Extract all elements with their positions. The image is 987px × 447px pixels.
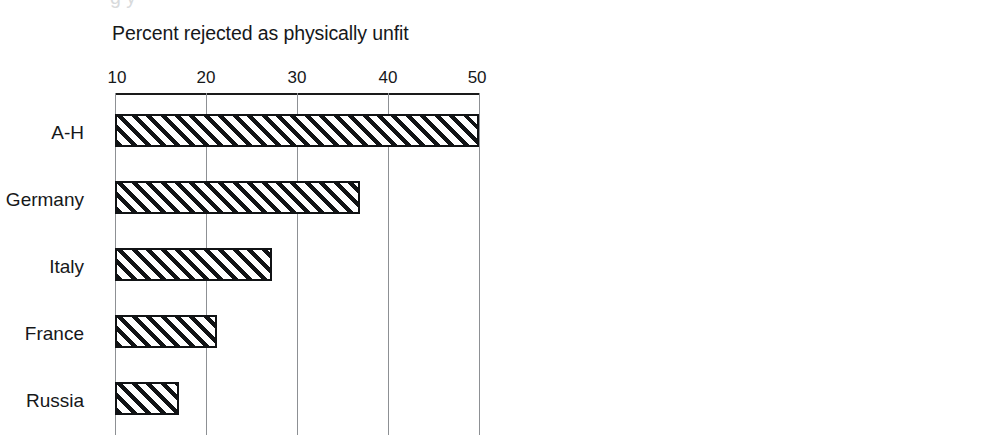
category-label: A-H <box>51 123 84 142</box>
category-label: Russia <box>26 391 84 410</box>
bar <box>115 114 479 147</box>
chart-panel-left: Percent rejected as physically unfit 102… <box>0 0 500 447</box>
category-label: France <box>25 324 84 343</box>
bar <box>115 181 360 214</box>
gridline <box>479 93 480 435</box>
tick-label: 50 <box>468 68 487 88</box>
category-label: Italy <box>49 257 84 276</box>
bar <box>115 315 217 348</box>
tick-label: 40 <box>379 68 398 88</box>
tick-label: 20 <box>197 68 216 88</box>
tick-label: 10 <box>107 68 126 88</box>
chart-title-left: Percent rejected as physically unfit <box>112 21 409 46</box>
plot-area-left: 1020304050 <box>115 93 479 438</box>
category-label: Germany <box>6 190 84 209</box>
bar <box>115 382 179 415</box>
chart-panel-right: Number of professional NCOs per company … <box>500 0 987 447</box>
two-panel-bar-chart-figure: g y Percent rejected as physically unfit… <box>0 0 987 447</box>
bar <box>115 248 272 281</box>
tick-label: 30 <box>288 68 307 88</box>
